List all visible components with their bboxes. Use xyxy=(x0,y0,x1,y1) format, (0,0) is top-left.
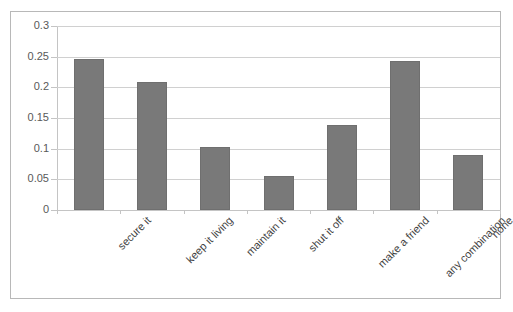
x-axis-tick xyxy=(373,210,374,214)
bar-secure-it[interactable] xyxy=(74,59,104,210)
bar-make-a-friend[interactable] xyxy=(327,125,357,210)
y-axis-tick-label: 0.25 xyxy=(15,50,49,62)
x-axis-category-label: shut it off xyxy=(306,214,346,254)
gridline xyxy=(57,57,500,58)
y-axis-labels: 00.050.10.150.20.250.3 xyxy=(11,26,49,210)
y-axis-tick-label: 0.3 xyxy=(15,19,49,31)
gridline xyxy=(57,210,500,211)
x-axis-tick xyxy=(437,210,438,214)
x-axis-category-label: secure it xyxy=(115,214,153,252)
bar-shut-it-off[interactable] xyxy=(264,176,294,210)
y-axis-tick-label: 0.2 xyxy=(15,80,49,92)
bar-any-combination[interactable] xyxy=(390,61,420,210)
x-axis-category-label: keep it living xyxy=(184,214,235,265)
y-axis-tick xyxy=(51,26,57,27)
x-axis-category-label: none xyxy=(490,214,513,240)
x-axis-labels: secure itkeep it livingmaintain itshut i… xyxy=(57,214,500,300)
bar-keep-it-living[interactable] xyxy=(137,82,167,210)
x-axis-tick xyxy=(184,210,185,214)
gridline xyxy=(57,149,500,150)
y-axis-tick-label: 0.15 xyxy=(15,111,49,123)
gridline xyxy=(57,118,500,119)
y-axis-tick xyxy=(51,118,57,119)
gridline xyxy=(57,87,500,88)
gridline xyxy=(57,26,500,27)
x-axis-category-label: make a friend xyxy=(375,214,431,270)
x-axis-tick xyxy=(57,210,58,214)
y-axis-tick-label: 0.1 xyxy=(15,142,49,154)
plot-area xyxy=(57,26,500,210)
y-axis-tick xyxy=(51,179,57,180)
bar-none[interactable] xyxy=(453,155,483,210)
x-axis-tick xyxy=(247,210,248,214)
chart-screenshot: 00.050.10.150.20.250.3 secure itkeep it … xyxy=(0,0,513,312)
x-axis-tick xyxy=(310,210,311,214)
y-axis-tick-label: 0 xyxy=(15,203,49,215)
chart-frame: 00.050.10.150.20.250.3 secure itkeep it … xyxy=(10,11,501,299)
x-axis-category-label: maintain it xyxy=(244,214,288,258)
y-axis-tick-label: 0.05 xyxy=(15,172,49,184)
y-axis-tick xyxy=(51,149,57,150)
x-axis-tick xyxy=(120,210,121,214)
bar-maintain-it[interactable] xyxy=(200,147,230,210)
x-axis-tick xyxy=(500,210,501,214)
y-axis-tick xyxy=(51,57,57,58)
y-axis-tick xyxy=(51,87,57,88)
